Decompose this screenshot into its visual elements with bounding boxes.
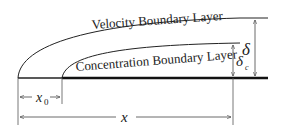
x-label: x <box>120 109 128 125</box>
delta-c-label: δ <box>236 53 244 69</box>
delta-label: δ <box>242 40 251 59</box>
x0-subscript: 0 <box>44 97 49 107</box>
boundary-layer-diagram: Velocity Boundary Layer Concentration Bo… <box>0 0 283 130</box>
velocity-layer-label: Velocity Boundary Layer <box>91 8 224 32</box>
concentration-layer-label: Concentration Boundary Layer <box>75 46 238 74</box>
x0-label: x <box>35 90 43 105</box>
delta-c-subscript: c <box>245 63 249 72</box>
